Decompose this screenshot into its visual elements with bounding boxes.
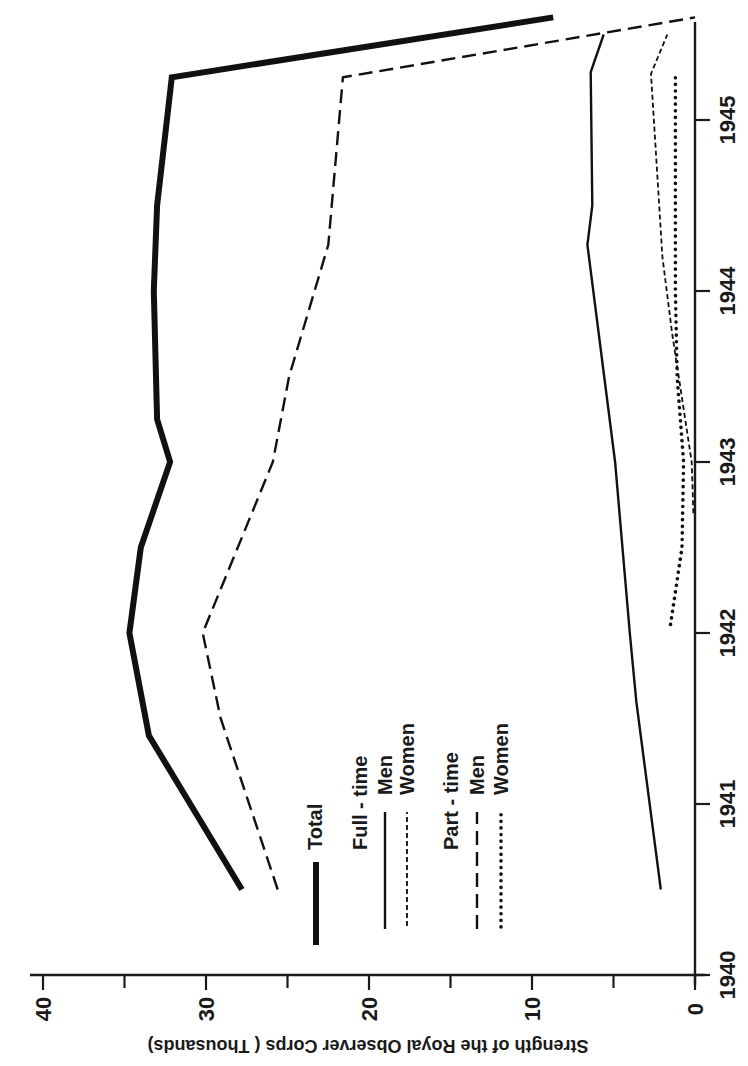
series-fulltime-women-line xyxy=(651,35,693,514)
legend: Total Full - time Men Women Part - time … xyxy=(304,723,512,945)
value-tick-label: 30 xyxy=(194,997,219,1021)
year-tick-label: 1942 xyxy=(715,609,740,658)
series-parttime-women-line xyxy=(671,77,684,624)
year-tick-label: 1940 xyxy=(715,951,740,1000)
year-tick-label: 1941 xyxy=(715,780,740,829)
legend-label-parttime-women: Women xyxy=(490,723,512,795)
value-tick-label: 0 xyxy=(683,1003,708,1015)
rotated-line-chart: 010203040 194019411942194319441945 Stren… xyxy=(0,0,748,1066)
value-axis-ticks: 010203040 xyxy=(31,975,708,1021)
legend-label-parttime-men: Men xyxy=(466,755,488,795)
series-fulltime-men-line xyxy=(587,35,660,890)
legend-label-fulltime-men: Men xyxy=(374,755,396,795)
value-tick-label: 20 xyxy=(357,997,382,1021)
legend-header-parttime: Part - time xyxy=(440,752,462,850)
legend-label-fulltime-women: Women xyxy=(396,723,418,795)
legend-label-total: Total xyxy=(304,804,326,850)
year-tick-label: 1945 xyxy=(715,96,740,145)
legend-header-fulltime: Full - time xyxy=(349,756,371,850)
year-tick-label: 1943 xyxy=(715,438,740,487)
value-tick-label: 40 xyxy=(31,997,56,1021)
year-tick-label: 1944 xyxy=(715,266,740,316)
value-tick-label: 10 xyxy=(520,997,545,1021)
value-axis-title: Strength of the Royal Observer Corps ( T… xyxy=(147,1036,588,1056)
year-axis-ticks: 194019411942194319441945 xyxy=(695,96,740,1000)
